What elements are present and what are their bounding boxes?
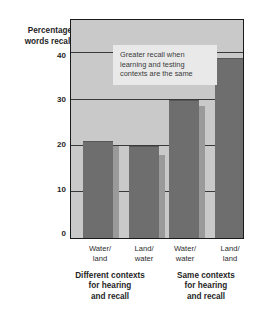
bar-land-water[interactable] <box>129 146 159 238</box>
x-tick-label-land-land: Land/ land <box>206 244 254 263</box>
x-tick-label-water-water-line-1: Water/ <box>161 244 209 254</box>
bar-land-land[interactable] <box>215 58 244 238</box>
annotation-line-1: Greater recall when <box>120 50 211 60</box>
bar-water-water[interactable] <box>169 100 199 239</box>
x-tick-label-water-water-line-2: water <box>161 254 209 264</box>
y-tick-label-0: 0 <box>46 229 66 238</box>
group-label-same-contexts-line-1: Same contexts <box>160 271 252 281</box>
group-label-different-contexts: Different contexts for hearing and recal… <box>62 271 158 302</box>
y-tick-label-20: 20 <box>46 140 66 149</box>
annotation-line-3: contexts are the same <box>120 69 211 79</box>
group-label-different-contexts-line-1: Different contexts <box>62 271 158 281</box>
y-tick-label-10: 10 <box>46 185 66 194</box>
x-tick-label-water-land-line-2: land <box>76 254 124 264</box>
group-label-different-contexts-line-3: and recall <box>62 292 158 302</box>
x-tick-label-land-land-line-1: Land/ <box>206 244 254 254</box>
chart-figure: Percentage of words recalled 40 30 20 10… <box>0 0 261 314</box>
group-label-same-contexts: Same contexts for hearing and recall <box>160 271 252 302</box>
group-label-different-contexts-line-2: for hearing <box>62 281 158 291</box>
y-tick-label-40: 40 <box>46 51 66 60</box>
annotation-line-2: learning and testing <box>120 60 211 70</box>
bar-water-land[interactable] <box>83 141 113 238</box>
group-label-same-contexts-line-3: and recall <box>160 292 252 302</box>
y-tick-label-30: 30 <box>46 95 66 104</box>
annotation-callout: Greater recall when learning and testing… <box>113 45 217 85</box>
group-label-same-contexts-line-2: for hearing <box>160 281 252 291</box>
x-axis-labels: Water/ land Land/ water Water/ water Lan… <box>70 244 244 268</box>
x-tick-label-water-land: Water/ land <box>76 244 124 263</box>
group-labels: Different contexts for hearing and recal… <box>62 271 252 311</box>
x-tick-label-land-land-line-2: land <box>206 254 254 264</box>
x-tick-label-water-land-line-1: Water/ <box>76 244 124 254</box>
x-tick-label-water-water: Water/ water <box>161 244 209 263</box>
